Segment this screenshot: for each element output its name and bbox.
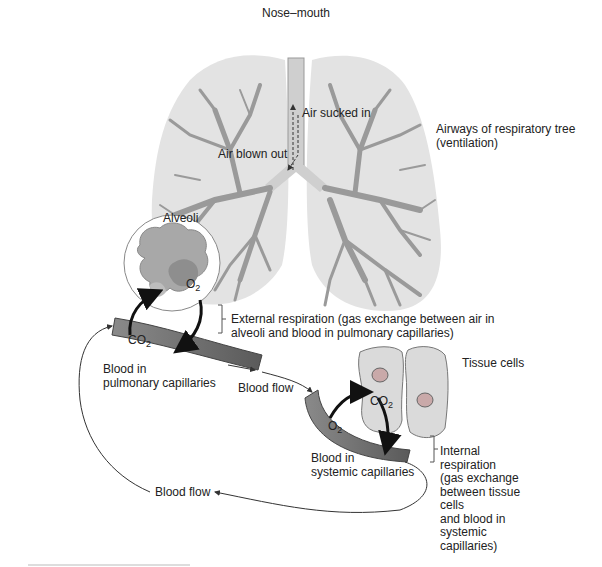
blood-flow-top-label: Blood flow: [238, 381, 293, 395]
external-bracket: [218, 305, 226, 333]
internal-bracket: [430, 436, 438, 462]
air-blown-out-label: Air blown out: [218, 147, 287, 161]
right-lung: [307, 56, 441, 311]
airways-label-line1: Airways of respiratory tree: [436, 122, 575, 136]
o2-alveoli-label: O2: [186, 277, 200, 295]
blood-pulmonary-line2: pulmonary capillaries: [103, 376, 216, 390]
nucleus-right: [417, 393, 433, 407]
nucleus-left: [372, 368, 388, 382]
air-sucked-in-label: Air sucked in: [302, 106, 371, 120]
tissue-cell-right: [405, 347, 448, 438]
alveoli-label: Alveoli: [163, 211, 198, 225]
blood-systemic-line2: systemic capillaries: [311, 465, 414, 479]
co2-pulmonary-label: CO2: [128, 333, 151, 351]
nose-mouth-label: Nose–mouth: [262, 6, 330, 20]
o2-systemic-label: O2: [328, 419, 342, 437]
external-respiration-line1: External respiration (gas exchange betwe…: [231, 312, 494, 326]
blood-flow-bottom-label: Blood flow: [155, 485, 210, 499]
co2-tissue-label: CO2: [370, 394, 393, 412]
tissue-cells-label: Tissue cells: [462, 356, 524, 370]
blood-pulmonary-line1: Blood in: [103, 362, 146, 376]
airways-label-line2: (ventilation): [436, 136, 498, 150]
internal-respiration-label: Internal respiration (gas exchange betwe…: [440, 445, 520, 553]
external-respiration-line2: alveoli and blood in pulmonary capillari…: [231, 326, 454, 340]
blood-systemic-line1: Blood in: [311, 451, 354, 465]
tissue-cell-left: [359, 347, 404, 433]
